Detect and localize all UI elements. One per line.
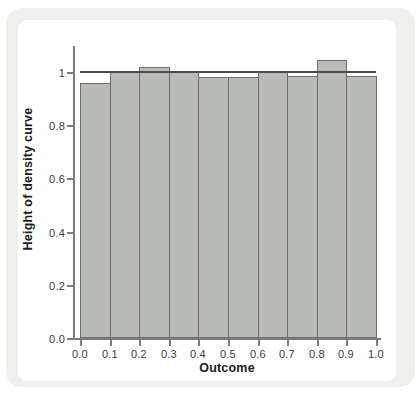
- y-tick-mark: [67, 338, 73, 340]
- density-curve-line: [80, 71, 376, 73]
- x-tick-label: 0.6: [243, 348, 273, 360]
- y-tick-label: 1: [29, 67, 65, 79]
- y-tick-mark: [67, 125, 73, 127]
- x-tick-mark: [346, 340, 348, 346]
- histogram-bar: [287, 76, 318, 338]
- histogram-chart: 0.00.20.40.60.810.00.10.20.30.40.50.60.7…: [0, 0, 420, 396]
- x-tick-mark: [139, 340, 141, 346]
- histogram-bar: [258, 72, 288, 338]
- x-tick-label: 0.1: [95, 348, 125, 360]
- x-axis-title: Outcome: [147, 361, 307, 375]
- x-tick-mark: [110, 340, 112, 346]
- x-tick-mark: [80, 340, 82, 346]
- y-tick-mark: [67, 178, 73, 180]
- x-tick-label: 0.0: [65, 348, 95, 360]
- y-tick-mark: [67, 285, 73, 287]
- histogram-bar: [346, 76, 377, 338]
- x-tick-mark: [198, 340, 200, 346]
- x-tick-mark: [258, 340, 260, 346]
- x-tick-label: 0.3: [154, 348, 184, 360]
- x-tick-label: 0.2: [124, 348, 154, 360]
- x-tick-mark: [287, 340, 289, 346]
- x-tick-mark: [228, 340, 230, 346]
- x-tick-label: 0.9: [331, 348, 361, 360]
- histogram-bar: [139, 67, 170, 338]
- histogram-bar: [317, 60, 347, 338]
- x-tick-mark: [317, 340, 319, 346]
- x-tick-label: 1.0: [361, 348, 391, 360]
- x-tick-label: 0.5: [213, 348, 243, 360]
- y-axis-title: Height of density curve: [21, 89, 35, 269]
- x-tick-label: 0.7: [272, 348, 302, 360]
- y-tick-mark: [67, 232, 73, 234]
- y-tick-mark: [67, 72, 73, 74]
- x-axis-line: [72, 338, 381, 340]
- y-axis-line: [73, 46, 75, 340]
- histogram-bar: [110, 71, 140, 338]
- x-tick-label: 0.4: [183, 348, 213, 360]
- histogram-bar: [198, 77, 229, 338]
- histogram-bar: [169, 72, 199, 338]
- histogram-bar: [228, 77, 259, 338]
- x-tick-label: 0.8: [302, 348, 332, 360]
- histogram-bar: [80, 83, 111, 338]
- y-tick-label: 0.0: [29, 333, 65, 345]
- y-tick-label: 0.2: [29, 280, 65, 292]
- x-tick-mark: [376, 340, 378, 346]
- x-tick-mark: [169, 340, 171, 346]
